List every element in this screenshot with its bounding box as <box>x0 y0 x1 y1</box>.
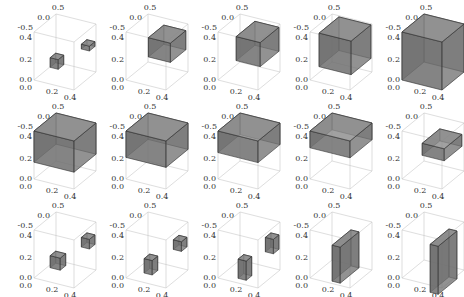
tick-label: 0.0 <box>129 211 142 220</box>
bounding-box-3d: 0.50.0-0.50.40.20.00.00.20.4 <box>372 198 464 297</box>
tick-label: 0.5 <box>328 3 341 12</box>
tick-label: 0.0 <box>203 83 216 92</box>
tick-label: 0.4 <box>111 33 124 42</box>
tick-label: 0.2 <box>387 55 400 64</box>
tick-label: 0.2 <box>46 186 59 195</box>
tick-label: 0.4 <box>156 291 169 297</box>
tick-label: -0.5 <box>202 122 217 131</box>
tick-label: 0.4 <box>19 231 32 240</box>
bounding-box-3d: 0.50.0-0.50.40.20.00.00.20.4 <box>4 99 96 198</box>
tick-label: -0.5 <box>294 23 309 32</box>
tick-label: 0.4 <box>387 132 400 141</box>
bounding-box-3d: 0.50.0-0.50.40.20.00.00.20.4 <box>96 99 188 198</box>
tick-label: 0.5 <box>236 102 249 111</box>
tick-label: 0.2 <box>414 186 427 195</box>
tick-label: 0.0 <box>19 281 32 290</box>
tick-label: 0.0 <box>19 182 32 191</box>
bounding-box-3d: 0.50.0-0.50.40.20.00.00.20.4 <box>372 0 464 99</box>
tick-label: 0.5 <box>420 102 433 111</box>
tick-label: 0.5 <box>144 201 157 210</box>
tick-label: 0.2 <box>414 87 427 96</box>
tick-label: 0.0 <box>387 83 400 92</box>
tick-label: 0.0 <box>129 13 142 22</box>
plot-panel-r0-c4: 0.50.0-0.50.40.20.00.00.20.4 <box>372 0 464 99</box>
tick-label: 0.5 <box>328 201 341 210</box>
tick-label: 0.2 <box>111 55 124 64</box>
tick-label: 0.5 <box>52 102 65 111</box>
bounding-box-3d: 0.50.0-0.50.40.20.00.00.20.4 <box>4 0 96 99</box>
tick-label: 0.0 <box>313 112 326 121</box>
tick-label: 0.2 <box>46 87 59 96</box>
tick-label: 0.2 <box>322 285 335 294</box>
tick-label: 0.5 <box>420 201 433 210</box>
plot-panel-r0-c1: 0.50.0-0.50.40.20.00.00.20.4 <box>96 0 188 99</box>
plot-panel-r2-c3: 0.50.0-0.50.40.20.00.00.20.4 <box>280 198 372 297</box>
tick-label: 0.0 <box>37 211 50 220</box>
plot-panel-r1-c3: 0.50.0-0.50.40.20.00.00.20.4 <box>280 99 372 198</box>
tick-label: 0.4 <box>111 132 124 141</box>
tick-label: 0.4 <box>340 291 353 297</box>
tick-label: 0.0 <box>19 83 32 92</box>
tick-label: 0.0 <box>111 182 124 191</box>
tick-label: 0.2 <box>295 154 308 163</box>
tick-label: 0.0 <box>387 182 400 191</box>
bounding-box-3d: 0.50.0-0.50.40.20.00.00.20.4 <box>280 99 372 198</box>
tick-label: -0.5 <box>202 221 217 230</box>
tick-label: 0.2 <box>203 154 216 163</box>
plot-panel-r1-c4: 0.50.0-0.50.40.20.00.00.20.4 <box>372 99 464 198</box>
tick-label: -0.5 <box>18 221 33 230</box>
tick-label: 0.4 <box>203 231 216 240</box>
bounding-box-3d: 0.50.0-0.50.40.20.00.00.20.4 <box>96 0 188 99</box>
tick-label: 0.0 <box>313 13 326 22</box>
tick-label: 0.0 <box>405 211 418 220</box>
tick-label: 0.2 <box>111 253 124 262</box>
plot-panel-r0-c3: 0.50.0-0.50.40.20.00.00.20.4 <box>280 0 372 99</box>
tick-label: 0.4 <box>203 132 216 141</box>
bounding-box-3d: 0.50.0-0.50.40.20.00.00.20.4 <box>96 198 188 297</box>
bounding-box-3d: 0.50.0-0.50.40.20.00.00.20.4 <box>188 99 280 198</box>
tick-label: 0.2 <box>203 253 216 262</box>
tick-label: 0.4 <box>203 33 216 42</box>
tick-label: 0.2 <box>322 186 335 195</box>
tick-label: 0.2 <box>138 285 151 294</box>
tick-label: 0.0 <box>111 281 124 290</box>
tick-label: 0.2 <box>322 87 335 96</box>
tick-label: 0.2 <box>19 55 32 64</box>
tick-label: 0.4 <box>19 33 32 42</box>
tick-label: 0.4 <box>387 231 400 240</box>
plot-panel-r1-c0: 0.50.0-0.50.40.20.00.00.20.4 <box>4 99 96 198</box>
tick-label: 0.2 <box>111 154 124 163</box>
tick-label: 0.0 <box>203 182 216 191</box>
tick-label: 0.2 <box>138 186 151 195</box>
plot-panel-r2-c1: 0.50.0-0.50.40.20.00.00.20.4 <box>96 198 188 297</box>
tick-label: 0.0 <box>295 83 308 92</box>
tick-label: 0.0 <box>221 13 234 22</box>
tick-label: 0.0 <box>405 13 418 22</box>
bounding-box-3d: 0.50.0-0.50.40.20.00.00.20.4 <box>188 0 280 99</box>
tick-label: -0.5 <box>386 221 401 230</box>
tick-label: -0.5 <box>294 221 309 230</box>
tick-label: 0.2 <box>387 154 400 163</box>
plot-panel-r2-c2: 0.50.0-0.50.40.20.00.00.20.4 <box>188 198 280 297</box>
tick-label: -0.5 <box>110 221 125 230</box>
plot-panel-r0-c0: 0.50.0-0.50.40.20.00.00.20.4 <box>4 0 96 99</box>
tick-label: 0.5 <box>328 102 341 111</box>
plot-panel-r2-c4: 0.50.0-0.50.40.20.00.00.20.4 <box>372 198 464 297</box>
tick-label: 0.2 <box>230 285 243 294</box>
bounding-box-3d: 0.50.0-0.50.40.20.00.00.20.4 <box>280 198 372 297</box>
tick-label: 0.0 <box>37 13 50 22</box>
tick-label: -0.5 <box>18 122 33 131</box>
bounding-box-3d: 0.50.0-0.50.40.20.00.00.20.4 <box>280 0 372 99</box>
tick-label: 0.2 <box>414 285 427 294</box>
tick-label: 0.2 <box>387 253 400 262</box>
tick-label: -0.5 <box>18 23 33 32</box>
tick-label: -0.5 <box>386 122 401 131</box>
tick-label: 0.5 <box>52 3 65 12</box>
tick-label: 0.2 <box>295 55 308 64</box>
bounding-box-3d: 0.50.0-0.50.40.20.00.00.20.4 <box>372 99 464 198</box>
tick-label: 0.4 <box>387 33 400 42</box>
tick-label: 0.4 <box>295 231 308 240</box>
bounding-box-3d: 0.50.0-0.50.40.20.00.00.20.4 <box>188 198 280 297</box>
tick-label: 0.0 <box>37 112 50 121</box>
